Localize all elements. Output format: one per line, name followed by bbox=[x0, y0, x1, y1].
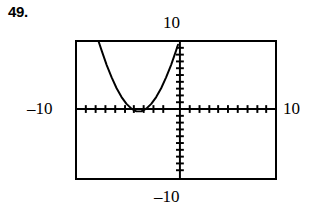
axis-label-y-min: –10 bbox=[154, 188, 180, 205]
calculator-graph-figure: 10 –10 10 –10 bbox=[0, 0, 314, 218]
plot-canvas bbox=[77, 42, 275, 178]
parabola-curve bbox=[99, 42, 178, 111]
axis-label-x-max: 10 bbox=[283, 100, 300, 117]
axis-label-x-min: –10 bbox=[27, 100, 53, 117]
axis-label-y-max: 10 bbox=[163, 14, 180, 31]
calculator-screen bbox=[75, 40, 277, 180]
